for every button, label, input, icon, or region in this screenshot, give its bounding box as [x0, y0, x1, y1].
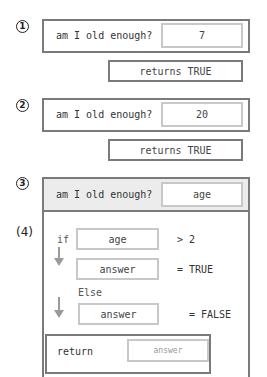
step-2-result-box: returns TRUE	[108, 139, 243, 161]
return-value-field[interactable]: answer	[127, 339, 209, 362]
step-3-parameter-field[interactable]: age	[161, 182, 243, 207]
step-1-marker: 1	[16, 20, 29, 33]
step-2-question-label: am I old enough?	[56, 109, 152, 120]
then-variable-field[interactable]: answer	[76, 258, 159, 280]
step-2-input-field[interactable]: 20	[161, 102, 243, 127]
else-keyword: Else	[78, 287, 102, 298]
else-assignment: = FALSE	[189, 309, 231, 320]
return-keyword: return	[57, 346, 93, 357]
return-box: return answer	[45, 334, 211, 374]
condition-variable-field[interactable]: age	[76, 228, 159, 250]
flow-arrowhead-icon	[54, 258, 64, 266]
step-3-question-label: am I old enough?	[56, 189, 152, 200]
step-1-function-box: am I old enough? 7	[42, 19, 250, 53]
condition-operator: > 2	[177, 234, 195, 245]
flow-arrowhead-icon	[54, 310, 64, 318]
function-header: am I old enough? age	[44, 179, 248, 212]
step-4-marker: (4)	[16, 225, 33, 239]
step-1-input-field[interactable]: 7	[161, 23, 243, 48]
step-2-function-box: am I old enough? 20	[42, 98, 250, 132]
flow-arrow-icon	[58, 297, 60, 311]
step-1-question-label: am I old enough?	[56, 30, 152, 41]
function-definition-panel: am I old enough? age if age > 2 answer =…	[42, 177, 250, 377]
then-assignment: = TRUE	[177, 264, 213, 275]
step-1-result-box: returns TRUE	[108, 60, 243, 82]
if-keyword: if	[57, 234, 69, 245]
step-2-marker: 2	[16, 99, 29, 112]
else-variable-field[interactable]: answer	[78, 303, 159, 325]
step-3-marker: 3	[16, 177, 29, 190]
